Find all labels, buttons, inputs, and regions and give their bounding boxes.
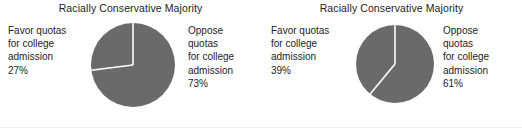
pie-container-right <box>261 22 522 122</box>
pie-chart-right <box>355 24 435 104</box>
chart-title-right: Racially Conservative Majority <box>261 2 522 14</box>
pie-chart-left <box>90 22 176 108</box>
chart-title-left: Racially Conservative Majority <box>0 2 261 14</box>
pie-container-left <box>0 22 261 122</box>
pie-chart-figure: Racially Conservative Majority Favor quo… <box>0 0 522 128</box>
chart-panel-left: Racially Conservative Majority Favor quo… <box>0 0 261 128</box>
chart-panel-right: Racially Conservative Majority Favor quo… <box>261 0 522 128</box>
